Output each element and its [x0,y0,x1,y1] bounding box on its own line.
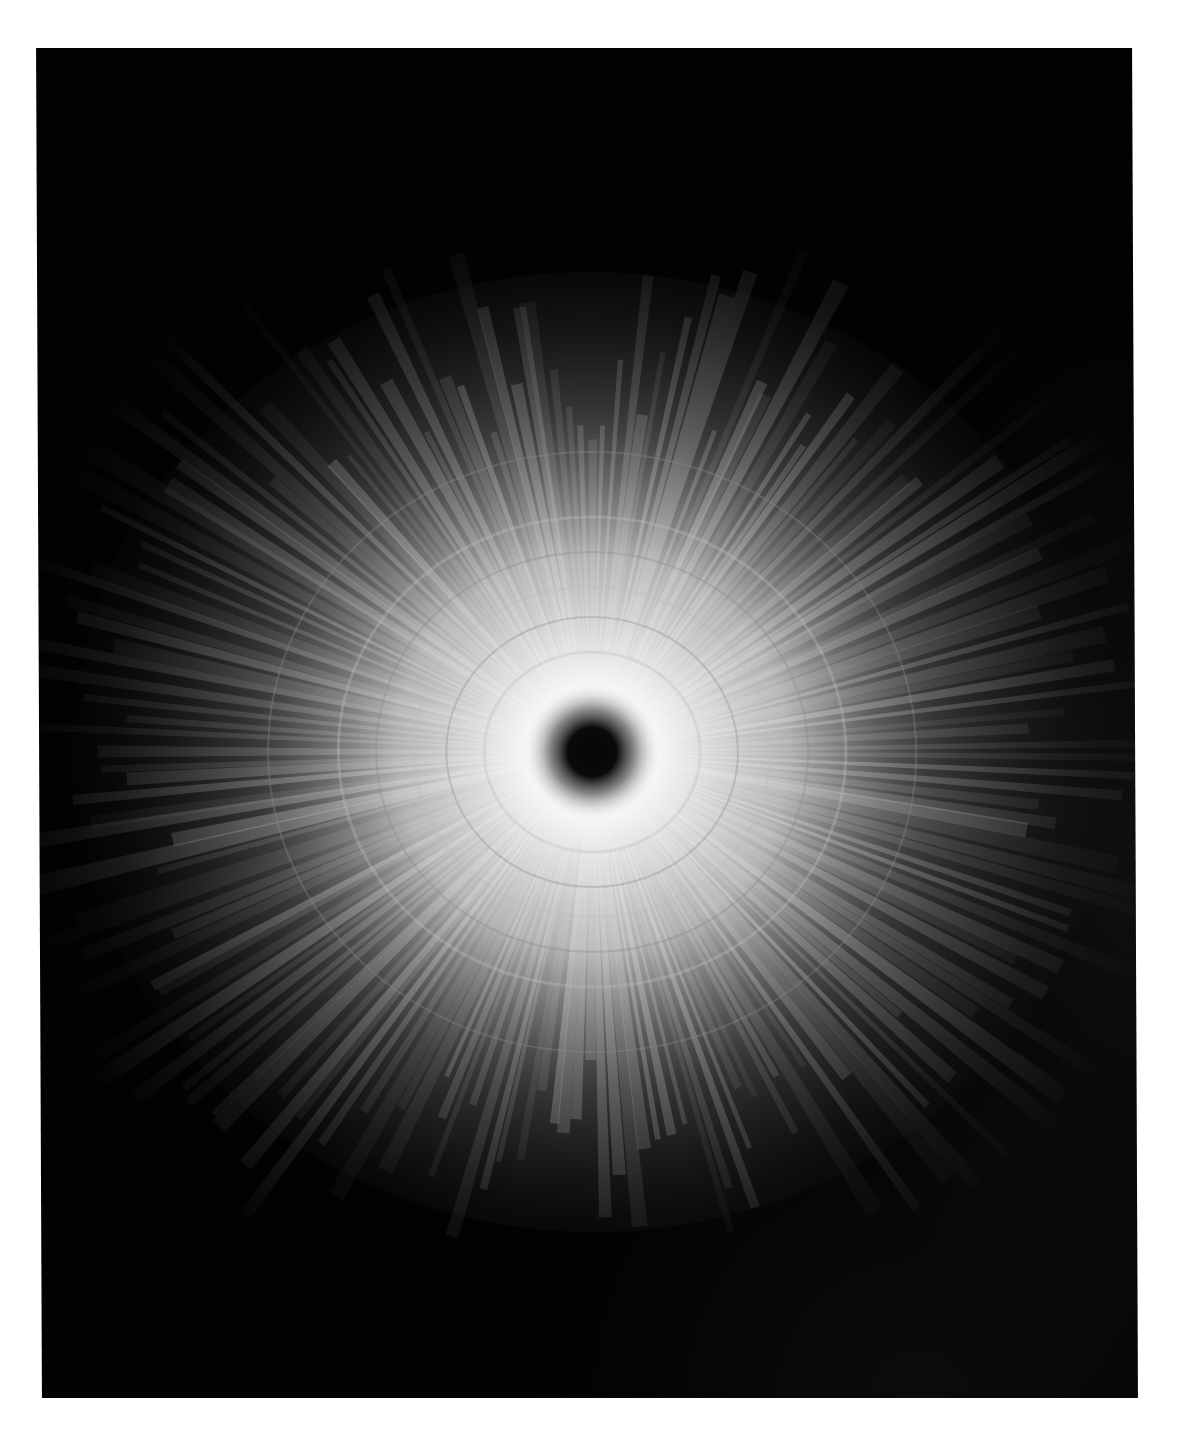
radial-burst [36,48,1138,1398]
burst-graphic [36,48,1138,1398]
dark-core [522,682,663,822]
pattern-panel [36,48,1138,1398]
